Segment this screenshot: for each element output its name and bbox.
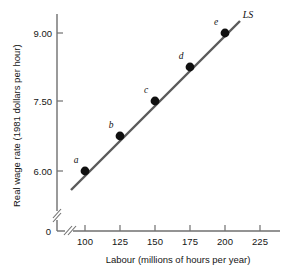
- labour-supply-line-group: [71, 21, 240, 190]
- x-axis-title: Labour (millions of hours per year): [106, 254, 251, 265]
- y-axis-title: Real wage rate (1981 dollars per hour): [11, 44, 22, 207]
- data-point-label-c: c: [144, 85, 149, 95]
- data-point-label-d: d: [179, 51, 184, 61]
- labour-supply-chart: 9.00 7.50 6.00 0 Real wage rate (1981 do…: [0, 0, 295, 278]
- x-axis-group: 100 125 150 175 200 225 Labour (millions…: [57, 225, 280, 265]
- curve-label-ls: LS: [242, 9, 254, 20]
- data-point-label-a: a: [74, 155, 79, 165]
- x-tick-label-125: 125: [112, 236, 128, 247]
- data-point-d: [186, 63, 195, 72]
- data-point-a: [81, 167, 90, 176]
- x-axis-break-mark-1: [64, 226, 72, 235]
- y-axis-group: 9.00 7.50 6.00 0 Real wage rate (1981 do…: [11, 14, 63, 237]
- x-tick-label-225: 225: [252, 236, 268, 247]
- chart-canvas: 9.00 7.50 6.00 0 Real wage rate (1981 do…: [0, 0, 295, 278]
- y-tick-label-750: 7.50: [34, 96, 53, 107]
- data-point-label-e: e: [214, 17, 218, 27]
- data-point-c: [151, 97, 160, 106]
- x-tick-label-175: 175: [182, 236, 198, 247]
- y-tick-label-600: 6.00: [34, 166, 53, 177]
- y-tick-label-900: 9.00: [34, 28, 53, 39]
- origin-label: 0: [46, 226, 51, 237]
- data-point-b: [116, 132, 125, 141]
- data-point-labels-group: a b c d e: [74, 17, 218, 165]
- data-points-group: [81, 29, 230, 176]
- x-tick-label-200: 200: [217, 236, 233, 247]
- data-point-label-b: b: [109, 120, 114, 130]
- x-tick-label-150: 150: [147, 236, 163, 247]
- x-tick-label-100: 100: [77, 236, 93, 247]
- data-point-e: [221, 29, 230, 38]
- labour-supply-line: [71, 21, 240, 190]
